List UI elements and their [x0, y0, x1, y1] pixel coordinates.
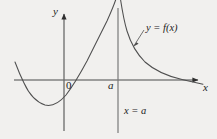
- curve-label: y = f(x): [146, 23, 178, 34]
- curve-label-leader-arrowhead: [134, 42, 139, 46]
- curve-right-branch: [121, 0, 203, 84]
- y-axis-label: y: [53, 6, 58, 17]
- asymptote-label: x = a: [124, 106, 146, 117]
- x-axis-label: x: [203, 82, 208, 93]
- curve-label-leader-line: [134, 30, 145, 47]
- x-tick-label-a: a: [108, 80, 114, 91]
- math-figure-graph-of-f: y x 0 a x = a y = f(x): [0, 0, 217, 139]
- origin-label: 0: [66, 80, 72, 91]
- graph-canvas: [0, 0, 217, 139]
